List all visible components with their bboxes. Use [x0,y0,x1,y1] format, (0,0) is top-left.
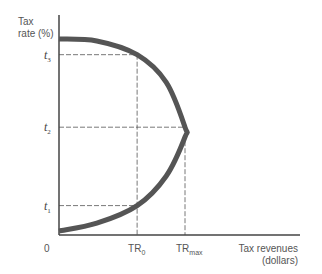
laffer-curve [59,39,187,231]
y-tick-label-t1: t1 [44,199,51,215]
origin-label: 0 [44,243,50,254]
y-tick-label-t2: t2 [44,120,51,136]
y-axis-label-line2: rate (%) [18,28,54,39]
y-tick-labels: t1t2t3 [44,48,51,215]
x-axis-label-line1: Tax revenues [239,243,298,254]
laffer-chart: t1t2t3 TR0TRmax Tax rate (%) Tax revenue… [0,0,322,274]
x-axis-label-line2: (dollars) [262,255,298,266]
y-tick-label-t3: t3 [44,48,51,64]
x-tick-label-TRmax: TRmax [176,243,203,256]
y-axis-label-line1: Tax [18,16,34,27]
x-tick-label-TR0: TR0 [128,243,145,256]
x-tick-labels: TR0TRmax [128,243,203,256]
